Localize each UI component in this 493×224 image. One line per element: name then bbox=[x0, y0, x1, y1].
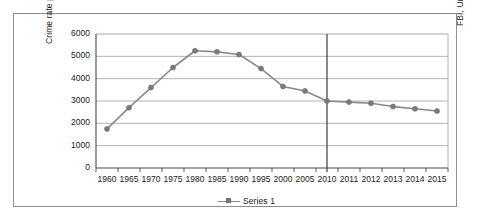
data-point-marker bbox=[325, 99, 330, 104]
x-tick-label: 2012 bbox=[362, 174, 381, 184]
x-tick-label: 1995 bbox=[252, 174, 271, 184]
data-point-marker bbox=[215, 49, 220, 54]
legend-marker-icon bbox=[218, 197, 240, 205]
y-tick-label: 3000 bbox=[60, 95, 90, 105]
x-tick-label: 1970 bbox=[142, 174, 161, 184]
x-tick-label: 1980 bbox=[186, 174, 205, 184]
x-tick-label: 1975 bbox=[164, 174, 183, 184]
data-point-marker bbox=[259, 66, 264, 71]
legend-item-series-1: Series 1 bbox=[218, 196, 275, 206]
x-tick-label: 2011 bbox=[340, 174, 358, 184]
data-point-marker bbox=[149, 85, 154, 90]
data-point-marker bbox=[413, 106, 418, 111]
y-tick-label: 2000 bbox=[60, 117, 90, 127]
x-tick-label: 2000 bbox=[274, 174, 293, 184]
y-tick-label: 5000 bbox=[60, 50, 90, 60]
chart-figure: Crime rate per 100,000 population FBI, U… bbox=[0, 0, 493, 224]
data-point-marker bbox=[193, 48, 198, 53]
y-tick-label: 4000 bbox=[60, 73, 90, 83]
data-point-marker bbox=[435, 109, 440, 114]
data-point-marker bbox=[171, 65, 176, 70]
chart-legend: Series 1 bbox=[0, 196, 493, 207]
x-tick-label: 2010 bbox=[318, 174, 337, 184]
data-point-marker bbox=[391, 104, 396, 109]
x-tick-label: 1990 bbox=[230, 174, 249, 184]
y-tick-label: 0 bbox=[60, 162, 90, 172]
data-point-marker bbox=[127, 105, 132, 110]
x-tick-label: 2013 bbox=[384, 174, 403, 184]
x-tick-label: 2005 bbox=[296, 174, 315, 184]
x-tick-label: 2014 bbox=[406, 174, 425, 184]
y-tick-label: 6000 bbox=[60, 28, 90, 38]
x-tick-label: 1960 bbox=[98, 174, 117, 184]
data-point-marker bbox=[281, 84, 286, 89]
data-point-marker bbox=[347, 100, 352, 105]
legend-label: Series 1 bbox=[243, 196, 275, 206]
y-tick-label: 1000 bbox=[60, 140, 90, 150]
data-point-marker bbox=[303, 88, 308, 93]
data-point-marker bbox=[105, 126, 110, 131]
series-line-series-1 bbox=[107, 51, 437, 129]
x-tick-label: 2015 bbox=[428, 174, 447, 184]
x-tick-label: 1985 bbox=[208, 174, 227, 184]
x-tick-label: 1965 bbox=[120, 174, 139, 184]
data-point-marker bbox=[369, 101, 374, 106]
data-point-marker bbox=[237, 52, 242, 57]
plot-area: 0100020003000400050006000196019651970197… bbox=[0, 0, 493, 224]
